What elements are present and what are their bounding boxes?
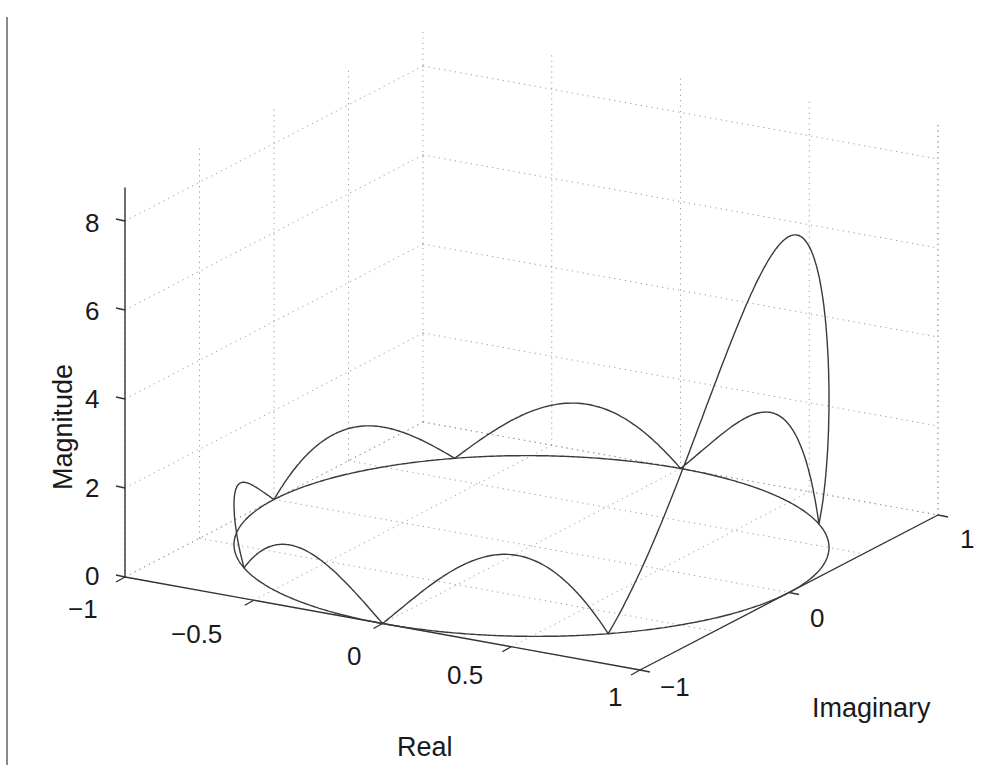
magnitude-3d-plot: 8 6 4 2 0 −1 −0.5 0 0.5 1 −1 0 1 Real Im…	[0, 0, 994, 765]
grid-line	[125, 66, 423, 221]
imag-tick-label: −1	[660, 672, 690, 702]
z-tick-label: 6	[85, 296, 99, 326]
imag-tick	[938, 515, 948, 517]
plot-curves	[234, 235, 829, 637]
real-tick	[502, 647, 511, 652]
z-tick-label: 8	[85, 208, 99, 238]
real-axis-label: Real	[397, 732, 453, 762]
magnitude-curve	[234, 235, 829, 634]
real-tick-label: −1	[68, 594, 98, 624]
z-tick	[116, 575, 125, 577]
grid-line	[423, 244, 938, 337]
grid-line	[383, 469, 681, 624]
grid-line	[423, 155, 938, 248]
z-tick	[116, 219, 125, 221]
z-tick-label: 2	[85, 473, 99, 503]
grid-line	[254, 445, 552, 600]
imag-tick-label: 1	[960, 524, 974, 554]
real-tick-label: −0.5	[171, 619, 222, 649]
real-tick-label: 1	[608, 682, 622, 712]
axes	[116, 188, 948, 675]
grid-line	[423, 333, 938, 426]
real-tick-label: 0.5	[447, 660, 483, 690]
magnitude-axis-label: Magnitude	[48, 364, 78, 490]
z-tick	[116, 397, 125, 399]
z-tick	[116, 486, 125, 488]
grid-line	[511, 492, 809, 647]
z-tick-label: 4	[85, 384, 99, 414]
real-tick	[374, 624, 383, 629]
real-tick	[631, 670, 640, 675]
imag-tick	[789, 593, 799, 595]
z-tick-label: 0	[85, 561, 99, 591]
imag-tick	[640, 670, 650, 672]
grid-line	[349, 461, 864, 554]
imaginary-axis-label: Imaginary	[812, 693, 931, 723]
real-tick	[116, 577, 125, 582]
grid-line	[125, 155, 423, 310]
real-tick	[245, 600, 254, 605]
grid-line	[125, 333, 423, 488]
imag-tick-label: 0	[810, 603, 824, 633]
grid-line	[423, 66, 938, 159]
real-tick-label: 0	[347, 641, 361, 671]
tick-labels: 8 6 4 2 0 −1 −0.5 0 0.5 1 −1 0 1 Real Im…	[48, 208, 974, 762]
grid-line	[200, 538, 715, 631]
z-tick	[116, 308, 125, 310]
